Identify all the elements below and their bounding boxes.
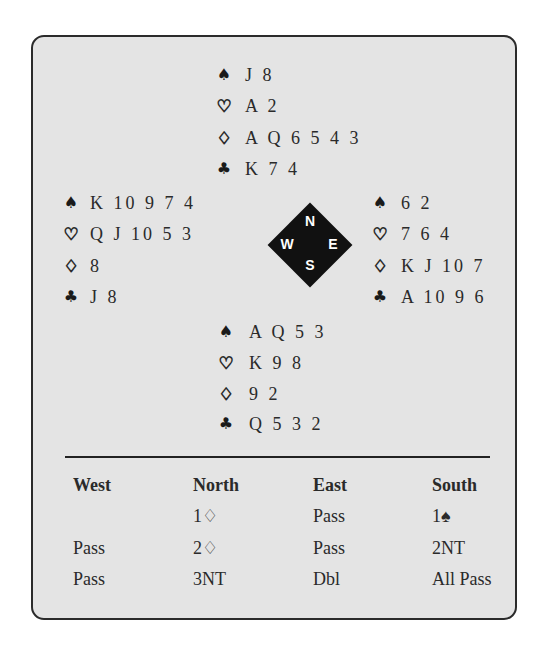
west-hearts-cards: Q J 10 5 3 <box>90 222 194 246</box>
spade-icon: ♠ <box>217 320 235 344</box>
north-hearts-cards: A 2 <box>245 94 280 118</box>
north-clubs-cards: K 7 4 <box>245 157 300 181</box>
south-spades-cards: A Q 5 3 <box>249 320 327 344</box>
auction-cell: 3NT <box>193 567 226 591</box>
north-diamonds-cards: A Q 6 5 4 3 <box>245 126 362 150</box>
east-clubs-cards: A 10 9 6 <box>401 285 487 309</box>
diamond-icon: ♢ <box>217 382 235 406</box>
auction-cell: All Pass <box>432 567 492 591</box>
auction-cell: Pass <box>313 504 345 528</box>
spade-icon: ♠ <box>215 63 233 87</box>
compass-s: S <box>302 257 318 273</box>
auction-cell: Pass <box>73 536 105 560</box>
auction-header-south: South <box>432 473 477 497</box>
west-diamonds-cards: 8 <box>90 254 102 278</box>
auction-cell: 1♢ <box>193 504 218 528</box>
south-clubs-cards: Q 5 3 2 <box>249 412 324 436</box>
north-spades-cards: J 8 <box>245 63 275 87</box>
diamond-icon: ♢ <box>62 254 80 278</box>
south-hearts-cards: K 9 8 <box>249 351 304 375</box>
divider <box>65 456 490 458</box>
auction-cell: Dbl <box>313 567 340 591</box>
diamond-icon: ♢ <box>371 254 389 278</box>
east-hearts-cards: 7 6 4 <box>401 222 452 246</box>
auction-cell: 2NT <box>432 536 465 560</box>
west-spades-cards: K 10 9 7 4 <box>90 191 196 215</box>
compass-icon: N W E S <box>265 199 355 289</box>
compass-e: E <box>325 236 341 252</box>
east-diamonds-cards: K J 10 7 <box>401 254 486 278</box>
auction-header-north: North <box>193 473 239 497</box>
auction-header-west: West <box>73 473 111 497</box>
club-icon: ♣ <box>371 285 389 309</box>
club-icon: ♣ <box>215 157 233 181</box>
heart-icon: ♡ <box>371 222 389 246</box>
auction-cell: 1♠ <box>432 504 451 528</box>
south-diamonds-cards: 9 2 <box>249 382 281 406</box>
auction-header-east: East <box>313 473 347 497</box>
club-icon: ♣ <box>217 412 235 436</box>
auction-cell: Pass <box>73 567 105 591</box>
diamond-icon: ♢ <box>215 126 233 150</box>
spade-icon: ♠ <box>371 191 389 215</box>
heart-icon: ♡ <box>62 222 80 246</box>
west-clubs-cards: J 8 <box>90 285 120 309</box>
compass-w: W <box>279 236 295 252</box>
auction-cell: 2♢ <box>193 536 218 560</box>
east-spades-cards: 6 2 <box>401 191 433 215</box>
heart-icon: ♡ <box>217 351 235 375</box>
spade-icon: ♠ <box>62 191 80 215</box>
compass-n: N <box>302 213 318 229</box>
club-icon: ♣ <box>62 285 80 309</box>
auction-cell: Pass <box>313 536 345 560</box>
bridge-deal-diagram: ♠ J 8 ♡ A 2 ♢ A Q 6 5 4 3 ♣ K 7 4 ♠ K 10… <box>31 35 517 620</box>
heart-icon: ♡ <box>215 94 233 118</box>
